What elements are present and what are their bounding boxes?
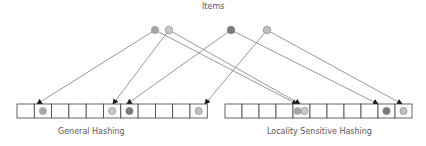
lsh-bucket-cell [327, 104, 344, 118]
lsh-bucket-cell [361, 104, 378, 118]
lsh-bucket-cell [344, 104, 361, 118]
item-circle [165, 26, 173, 34]
lsh-bucket-cell [242, 104, 259, 118]
hashing-diagram [0, 0, 426, 146]
item-circle [227, 26, 235, 34]
hashed-item-circle [294, 107, 301, 114]
hashed-item-circle [383, 107, 390, 114]
lsh-bucket-cell [276, 104, 293, 118]
item-circle [151, 26, 159, 34]
lsh-bucket-cell [225, 104, 242, 118]
mapping-arrow [155, 30, 297, 104]
general-bucket-cell [138, 104, 155, 118]
lsh-bucket-cell [310, 104, 327, 118]
mapping-arrow [231, 30, 378, 104]
items-title: Items [202, 2, 224, 11]
mapping-arrow [127, 30, 231, 104]
general-hashing-label: General Hashing [58, 127, 125, 136]
hashed-item-circle [39, 107, 46, 114]
hashed-item-circle [126, 107, 133, 114]
mapping-arrow [267, 30, 402, 104]
general-bucket-cell [69, 104, 86, 118]
lsh-label: Locality Sensitive Hashing [267, 127, 372, 136]
item-circle [263, 26, 271, 34]
general-bucket-cell [17, 104, 34, 118]
mapping-arrow [169, 30, 300, 104]
mapping-arrow [113, 30, 169, 104]
general-bucket-cell [52, 104, 69, 118]
general-hashing-buckets [17, 104, 207, 118]
mapping-arrow [205, 30, 267, 104]
general-bucket-cell [86, 104, 103, 118]
lsh-bucket-cell [259, 104, 276, 118]
hashed-item-circle [400, 107, 407, 114]
hashed-item-circle [195, 107, 202, 114]
general-bucket-cell [155, 104, 172, 118]
mapping-arrow [37, 30, 155, 104]
general-bucket-cell [173, 104, 190, 118]
items-group [151, 26, 271, 34]
hashed-item-circle [109, 107, 116, 114]
hashed-item-circle [301, 107, 308, 114]
lsh-buckets [225, 104, 412, 118]
arrow-lines [37, 30, 402, 104]
